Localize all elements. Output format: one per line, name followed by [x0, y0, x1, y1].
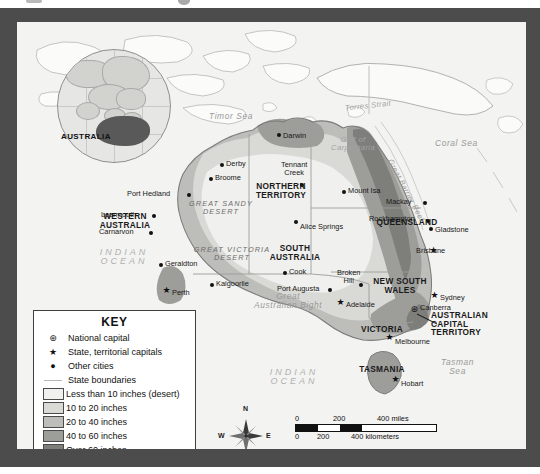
city-marker-carnarvon[interactable] — [149, 231, 153, 235]
city-label-alice-springs: Alice Springs — [300, 223, 343, 231]
key-label-band-40-60: 40 to 60 inches — [64, 431, 127, 441]
city-label-melbourne: Melbourne — [395, 338, 430, 346]
state-label-victoria: VICTORIA — [347, 325, 417, 334]
city-marker-derby[interactable] — [220, 163, 224, 167]
city-label-adelaide: Adelaide — [346, 301, 375, 309]
key-row-band-60-plus: Over 60 inches — [40, 443, 189, 449]
city-marker-canberra[interactable] — [411, 310, 420, 319]
key-label-state-capital: State, territorial capitals — [66, 347, 162, 357]
water-label-tasman-sea: Tasman Sea — [441, 358, 474, 376]
city-marker-rockhampton[interactable] — [426, 219, 430, 223]
city-marker-learmouth[interactable] — [152, 214, 156, 218]
city-label-port-augusta: Port Augusta — [277, 285, 319, 293]
key-row-band-desert: Less than 10 inches (desert) — [40, 387, 189, 401]
scale-bar: 0 200 400 miles 0 200 400 kilometers — [295, 414, 437, 444]
city-label-kalgoorlie: Kalgoorlie — [216, 280, 249, 288]
state-boundary-icon — [40, 376, 66, 385]
australia-precipitation-map[interactable]: AUSTRALIA Timor Sea Torres Strait Coral … — [17, 22, 526, 449]
city-label-derby: Derby — [226, 160, 246, 168]
water-label-timor-sea: Timor Sea — [209, 112, 253, 121]
swatch-60-plus — [43, 444, 64, 449]
map-frame: AUSTRALIA Timor Sea Torres Strait Coral … — [0, 8, 540, 467]
city-label-geraldton: Geraldton — [165, 260, 197, 268]
other-city-icon: ● — [40, 362, 66, 371]
city-label-canberra: Canberra — [420, 304, 451, 312]
desert-label-great-sandy-desert: GREAT SANDY DESERT — [169, 200, 273, 215]
city-label-broken-hill: BrokenHill — [337, 269, 360, 285]
key-label-band-desert: Less than 10 inches (desert) — [64, 389, 180, 399]
australia-highlight — [96, 116, 150, 146]
key-row-state-capital: ★ State, territorial capitals — [40, 345, 189, 359]
city-marker-port-hedland[interactable] — [187, 193, 191, 197]
partial-toolbar-icon[interactable] — [26, 0, 42, 3]
city-label-mount-isa: Mount Isa — [348, 187, 380, 195]
city-marker-port-augusta[interactable] — [328, 288, 332, 292]
city-marker-gladstone[interactable] — [429, 227, 433, 231]
city-label-perth: Perth — [172, 289, 190, 297]
city-label-rockhampton: Rockhampton — [369, 215, 415, 223]
state-label-tasmania: TASMANIA — [347, 365, 417, 374]
key-label-other-cities: Other cities — [66, 361, 114, 371]
city-label-mackay: Mackay — [386, 198, 411, 206]
scale-kilometers-ticks: 0 200 400 kilometers — [295, 432, 437, 444]
city-label-tennant-creek: TennantCreek — [281, 161, 307, 177]
city-label-brisbane: Brisbane — [416, 247, 445, 255]
city-label-port-hedland: Port Hedland — [127, 190, 170, 198]
city-marker-mount-isa[interactable] — [342, 190, 346, 194]
national-capital-icon: ⊛ — [40, 334, 66, 343]
city-label-gladstone: Gladstone — [435, 226, 469, 234]
compass-rose: N S E W — [217, 405, 275, 449]
compass-east-label: E — [266, 432, 271, 439]
city-label-broome: Broome — [215, 174, 241, 182]
map-key[interactable]: KEY ⊛ National capital ★ State, territor… — [33, 310, 196, 449]
city-marker-mackay[interactable] — [423, 201, 427, 205]
key-row-national-capital: ⊛ National capital — [40, 331, 189, 345]
city-marker-kalgoorlie[interactable] — [210, 283, 214, 287]
state-label-australian-capital-territory: AUSTRALIAN CAPITAL TERRITORY — [431, 311, 501, 337]
state-label-new-south-wales: NEW SOUTH WALES — [359, 277, 441, 294]
key-label-band-60-plus: Over 60 inches — [64, 445, 127, 449]
swatch-desert — [43, 388, 64, 400]
water-label-coral-sea: Coral Sea — [435, 139, 478, 148]
scale-bar-graphic — [295, 424, 437, 432]
swatch-40-60 — [43, 430, 64, 442]
partial-toolbar-badge-icon[interactable] — [178, 0, 190, 5]
state-capital-icon: ★ — [40, 348, 66, 357]
compass-west-label: W — [218, 432, 225, 439]
top-chrome-strip — [0, 0, 540, 8]
city-marker-tennant-creek[interactable] — [300, 183, 304, 187]
city-marker-darwin[interactable] — [277, 133, 281, 137]
key-label-band-20-40: 20 to 40 inches — [64, 417, 127, 427]
globe-inset — [57, 49, 171, 163]
city-label-carnarvon: Carnarvon — [99, 228, 134, 236]
city-label-learmouth: Learmouth — [101, 211, 136, 219]
key-row-state-boundaries: State boundaries — [40, 373, 189, 387]
city-label-cook: Cook — [289, 268, 306, 276]
key-row-band-10-20: 10 to 20 inches — [40, 401, 189, 415]
swatch-20-40 — [43, 416, 64, 428]
ocean-label-indian-ocean-south: INDIAN OCEAN — [249, 368, 339, 387]
city-label-hobart: Hobart — [401, 380, 423, 388]
swatch-10-20 — [43, 402, 64, 414]
compass-north-label: N — [243, 405, 248, 412]
city-marker-geraldton[interactable] — [159, 263, 163, 267]
key-label-band-10-20: 10 to 20 inches — [64, 403, 127, 413]
city-label-sydney: Sydney — [440, 294, 465, 302]
state-label-northern-territory: NORTHERN TERRITORY — [243, 182, 319, 199]
water-label-gulf-of-carpentaria: Gulf of Carpentaria — [331, 136, 375, 152]
key-row-band-20-40: 20 to 40 inches — [40, 415, 189, 429]
water-label-great-australian-bight: Great Australian Bight — [254, 292, 322, 310]
city-label-darwin: Darwin — [283, 132, 306, 140]
state-label-south-australia: SOUTH AUSTRALIA — [257, 244, 333, 261]
scale-miles-ticks: 0 200 400 miles — [295, 414, 437, 424]
globe-inset-label: AUSTRALIA — [61, 132, 111, 141]
key-row-band-40-60: 40 to 60 inches — [40, 429, 189, 443]
new-guinea-outline — [317, 63, 493, 115]
key-label-state-boundaries: State boundaries — [66, 375, 136, 385]
key-title: KEY — [40, 315, 189, 329]
city-marker-broome[interactable] — [209, 177, 213, 181]
ocean-label-indian-ocean-west: INDIAN OCEAN — [79, 248, 169, 267]
city-marker-cook[interactable] — [283, 271, 287, 275]
city-marker-alice-springs[interactable] — [294, 220, 298, 224]
key-row-other-cities: ● Other cities — [40, 359, 189, 373]
